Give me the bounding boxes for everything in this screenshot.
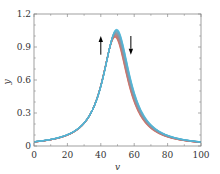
x-tick-label: 80 [162,150,174,160]
chart: 020406080100 00.30.60.91.2 v y [0,0,220,174]
x-tick-label: 20 [62,150,74,160]
resonance-curve [34,32,201,142]
y-tick-label: 0 [25,141,31,151]
y-tick-label: 0.9 [17,42,32,52]
curves-group [34,29,201,142]
annotation-arrows [99,36,133,55]
resonance-curve [34,35,201,142]
arrow-down-icon [129,49,133,55]
x-tick-label: 60 [128,150,140,160]
x-axis-label: v [115,162,120,172]
y-tick-label: 0.3 [17,108,32,118]
x-tick-label: 100 [192,150,209,160]
resonance-curve [34,29,201,141]
x-tick-label: 40 [95,150,107,160]
resonance-curve [34,37,201,142]
y-tick-label: 0.6 [17,75,32,85]
y-axis-label: y [2,79,12,86]
y-axis: 00.30.60.91.2 [17,9,201,151]
resonance-curve [34,34,201,143]
y-tick-label: 1.2 [17,9,31,19]
resonance-curve [34,37,201,143]
resonance-curve [34,30,201,142]
x-tick-label: 0 [31,150,37,160]
resonance-curve [34,31,201,142]
resonance-curve [34,36,201,142]
arrow-up-icon [99,36,103,42]
resonance-curve [34,31,201,142]
resonance-curve [34,34,201,142]
resonance-curve [34,33,201,142]
resonance-curve [34,35,201,142]
resonance-curve [34,32,201,142]
